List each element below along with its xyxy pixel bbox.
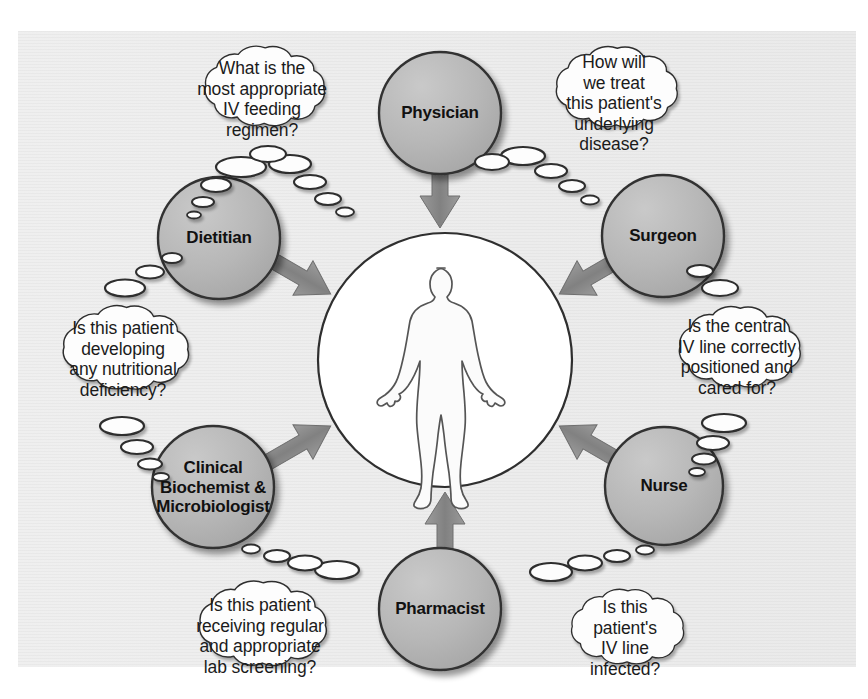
bubble-text-nurse-line-care-question: Is the central IV line correctly positio…: [655, 316, 819, 398]
role-label-pharmacist: Pharmacist: [360, 599, 520, 619]
thought-trail-lab: [242, 545, 359, 580]
bubble-text-dietitian-question: Is this patient developing any nutrition…: [38, 318, 208, 400]
bubble-text-surgeon-question: How will we treat this patient's underly…: [532, 52, 696, 155]
role-label-nurse: Nurse: [584, 476, 744, 496]
diagram-canvas: What is the most appropriate IV feeding …: [0, 0, 868, 699]
thought-trail-infection: [530, 546, 654, 582]
thought-trail-surgeon-top: [475, 147, 599, 205]
bubble-text-pharmacist-lab-question: Is this patient receiving regular and ap…: [174, 595, 346, 677]
role-label-surgeon: Surgeon: [583, 226, 743, 246]
role-label-dietitian: Dietitian: [139, 228, 299, 248]
role-label-clinical-biochemist-microbiologist: Clinical Biochemist & Microbiologist: [120, 458, 306, 517]
bubble-text-nurse-infection-question: Is this patient's IV line infected?: [549, 597, 701, 679]
role-label-physician: Physician: [360, 103, 520, 123]
bubble-text-physician-question: What is the most appropriate IV feeding …: [181, 58, 343, 140]
